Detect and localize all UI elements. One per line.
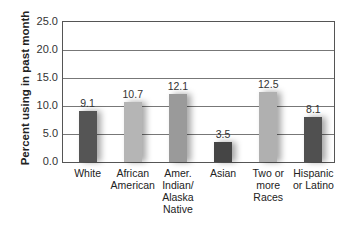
bar: [214, 142, 232, 162]
bar-value-label: 10.7: [113, 88, 153, 100]
y-tick-label: 5.0: [24, 127, 58, 139]
bar-chart: Percent using in past month 0.05.010.015…: [0, 0, 350, 227]
y-tick-label: 0.0: [24, 155, 58, 167]
bar: [79, 111, 97, 162]
gridline: [63, 134, 334, 135]
y-tick-label: 20.0: [24, 43, 58, 55]
gridline: [63, 78, 334, 79]
y-tick-label: 25.0: [24, 15, 58, 27]
y-tick-label: 10.0: [24, 99, 58, 111]
x-category-label: Hispanicor Latino: [285, 167, 341, 191]
bar-value-label: 8.1: [293, 103, 333, 115]
bar: [169, 94, 187, 162]
plot-area: 9.110.712.13.512.58.1: [62, 21, 335, 163]
bar: [259, 92, 277, 162]
bar-value-label: 3.5: [203, 128, 243, 140]
bar: [304, 117, 322, 162]
y-axis-label: Percent using in past month: [19, 3, 35, 173]
bar-value-label: 12.1: [158, 80, 198, 92]
y-tick-label: 15.0: [24, 71, 58, 83]
bar-value-label: 12.5: [248, 78, 288, 90]
bar: [124, 102, 142, 162]
bar-value-label: 9.1: [68, 97, 108, 109]
gridline: [63, 50, 334, 51]
